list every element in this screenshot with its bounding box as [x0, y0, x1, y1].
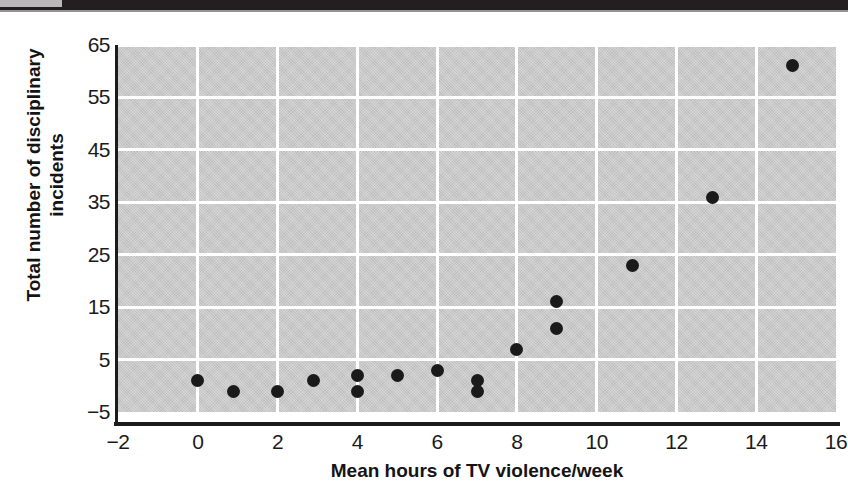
data-point: [227, 385, 240, 398]
y-axis-tick-label: 65: [66, 34, 110, 55]
x-axis-tick-label: 10: [572, 431, 622, 452]
data-point: [471, 385, 484, 398]
x-axis-tick-label: 14: [731, 431, 781, 452]
gridline-vertical: [276, 45, 279, 412]
gridline-vertical: [675, 45, 678, 412]
y-axis-tick-label: 35: [66, 191, 110, 212]
data-point: [351, 385, 364, 398]
gridline-vertical: [755, 45, 758, 412]
y-axis-tick-label: 45: [66, 139, 110, 160]
y-axis-tick-labels: −55152535455565: [62, 12, 110, 487]
data-point: [550, 322, 563, 335]
scatterplot-figure: −55152535455565 −20246810121416 Total nu…: [0, 12, 848, 487]
x-axis-line: [114, 422, 840, 426]
scan-artifact-top-band: [0, 0, 848, 10]
y-axis-tick-label: 15: [66, 296, 110, 317]
x-axis-tick-label: 12: [651, 431, 701, 452]
y-axis-title: Total number of disciplinary incidents: [22, 10, 68, 340]
x-axis-tick-label: 0: [173, 431, 223, 452]
plot-halftone-texture: [118, 45, 836, 412]
gridline-horizontal: [118, 44, 836, 47]
x-axis-tick-label: 8: [492, 431, 542, 452]
y-axis-tick-label: −5: [66, 401, 110, 422]
gridline-vertical: [515, 45, 518, 412]
y-axis-line: [115, 45, 118, 424]
x-axis-tick-label: 6: [412, 431, 462, 452]
gridline-vertical: [595, 45, 598, 412]
y-axis-tick-label: 5: [66, 349, 110, 370]
y-axis-tick-label: 25: [66, 244, 110, 265]
scan-artifact-corner: [0, 0, 62, 7]
data-point: [431, 364, 444, 377]
x-axis-tick-labels: −20246810121416: [0, 431, 848, 457]
data-point: [391, 369, 404, 382]
gridline-horizontal: [118, 201, 836, 204]
data-point: [626, 259, 639, 272]
data-point: [786, 59, 799, 72]
x-axis-tick-label: 4: [332, 431, 382, 452]
plot-area: [118, 45, 836, 412]
x-axis-tick-label: −2: [93, 431, 143, 452]
y-axis-tick-label: 55: [66, 86, 110, 107]
gridline-vertical: [436, 45, 439, 412]
gridline-horizontal: [118, 358, 836, 361]
x-axis-tick-label: 16: [811, 431, 848, 452]
x-axis-tick-label: 2: [253, 431, 303, 452]
gridline-horizontal: [118, 148, 836, 151]
gridline-vertical: [356, 45, 359, 412]
x-axis-title: Mean hours of TV violence/week: [118, 460, 836, 482]
gridline-horizontal: [118, 306, 836, 309]
gridline-horizontal: [118, 96, 836, 99]
data-point: [307, 374, 320, 387]
gridline-vertical: [196, 45, 199, 412]
gridline-horizontal: [118, 253, 836, 256]
data-point: [271, 385, 284, 398]
data-point: [191, 374, 204, 387]
data-point: [706, 191, 719, 204]
data-point: [510, 343, 523, 356]
data-point: [351, 369, 364, 382]
